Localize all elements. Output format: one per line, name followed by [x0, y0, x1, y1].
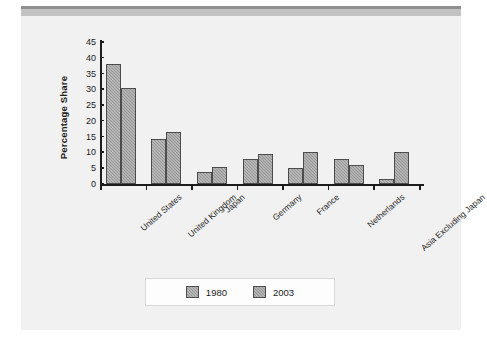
bar-netherlands-2003	[349, 165, 364, 184]
bar-japan-1980	[197, 172, 212, 184]
bar-asia-excluding-japan-2003	[394, 152, 409, 184]
bar-germany-2003	[258, 154, 273, 184]
x-axis-tick-mark	[328, 186, 330, 190]
y-axis-tick-label: 45	[86, 37, 96, 47]
bar-netherlands-1980	[334, 159, 349, 184]
y-axis-tick-label: 40	[86, 53, 96, 63]
y-axis-tick: 5	[61, 163, 105, 173]
y-axis-tick: 20	[61, 116, 105, 126]
x-axis-label-germany: Germany	[271, 192, 304, 222]
y-axis-tick-label: 35	[86, 69, 96, 79]
legend-entry-1980: 1980	[186, 286, 227, 298]
x-axis-tick-mark	[146, 186, 148, 190]
bar-united-states-1980	[106, 64, 121, 184]
y-axis-tick-label: 25	[86, 100, 96, 110]
x-axis-tick-mark	[419, 186, 421, 190]
scan-header-band-light	[21, 9, 461, 16]
y-axis-tick-label: 15	[86, 132, 96, 142]
legend-label-2003: 2003	[273, 287, 294, 298]
y-axis-tick-label: 0	[91, 179, 96, 189]
x-axis-tick-mark	[373, 186, 375, 190]
y-axis-tick: 0	[61, 179, 105, 189]
plot-area	[102, 42, 421, 184]
x-axis-label-france: France	[314, 192, 341, 217]
y-axis-tick-label: 10	[86, 147, 96, 157]
y-axis-tick: 40	[61, 53, 105, 63]
bar-chart: Percentage Share 454035302520151050 Unit…	[21, 16, 461, 330]
x-axis-tick-mark	[100, 186, 102, 190]
y-axis-tick: 35	[61, 69, 105, 79]
x-axis-label-asia-excluding-japan: Asia Excluding Japan	[419, 192, 487, 253]
bar-japan-2003	[212, 167, 227, 184]
legend-swatch-1980	[186, 286, 199, 298]
x-axis-label-netherlands: Netherlands	[365, 192, 406, 230]
bar-france-2003	[303, 152, 318, 184]
y-axis-tick: 30	[61, 84, 105, 94]
legend-label-1980: 1980	[206, 287, 227, 298]
y-axis-tick-label: 20	[86, 116, 96, 126]
y-axis-tick: 15	[61, 132, 105, 142]
legend-swatch-2003	[253, 286, 266, 298]
x-axis-line	[100, 184, 424, 186]
y-axis-tick: 45	[61, 37, 105, 47]
x-axis-tick-mark	[237, 186, 239, 190]
y-axis-tick-label: 5	[91, 163, 96, 173]
chart-legend: 19802003	[145, 278, 335, 306]
legend-entry-2003: 2003	[253, 286, 294, 298]
bar-germany-1980	[243, 159, 258, 184]
bar-united-kingdom-2003	[166, 132, 181, 184]
x-axis-tick-mark	[191, 186, 193, 190]
x-axis-label-united-states: United States	[138, 192, 183, 233]
y-axis-tick: 10	[61, 147, 105, 157]
x-axis-tick-mark	[282, 186, 284, 190]
bar-france-1980	[288, 168, 303, 184]
figure-panel: Percentage Share 454035302520151050 Unit…	[21, 16, 461, 330]
bar-asia-excluding-japan-1980	[379, 179, 394, 184]
y-axis-tick: 25	[61, 100, 105, 110]
bar-united-states-2003	[121, 88, 136, 184]
bar-united-kingdom-1980	[151, 139, 166, 184]
y-axis-tick-label: 30	[86, 84, 96, 94]
